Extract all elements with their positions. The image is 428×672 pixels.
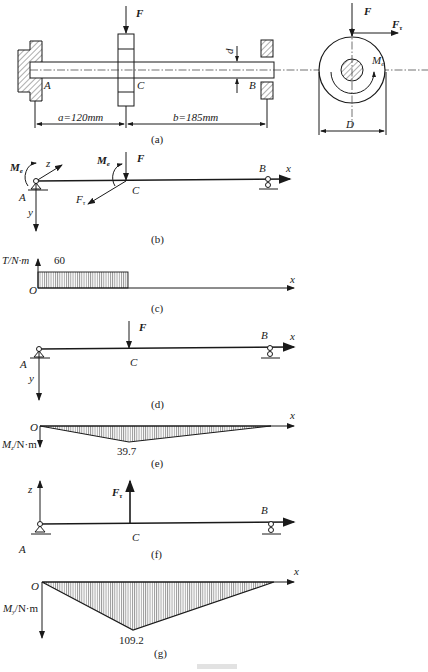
origin-label-e: O bbox=[30, 421, 38, 433]
panel-a-shaft-assembly: F d A C B a=120mm b=185mm F Fτ Me bbox=[18, 3, 428, 146]
panel-b-free-body: Me Me F Fτ z y x A C B (b) bbox=[9, 152, 291, 246]
point-c-label-f: C bbox=[132, 531, 140, 543]
tangential-force-label-f: Fτ bbox=[111, 486, 123, 500]
watermark-bar bbox=[197, 664, 237, 669]
axis-y-label-d: y bbox=[28, 372, 34, 384]
axis-x-label-d: x bbox=[289, 330, 295, 342]
point-b-label: B bbox=[249, 79, 256, 91]
caption-c: (c) bbox=[151, 302, 164, 315]
torque-a-label: Me bbox=[9, 161, 23, 175]
moment-y-axis-label: My/N·m bbox=[2, 602, 39, 615]
caption-a: (a) bbox=[151, 133, 164, 146]
point-b-label-f: B bbox=[261, 504, 268, 516]
axis-y-label-b: y bbox=[27, 206, 33, 218]
point-b-label-b: B bbox=[259, 162, 266, 174]
axis-z-label-b: z bbox=[45, 157, 51, 169]
axis-x-label-b: x bbox=[285, 162, 291, 174]
point-a-label: A bbox=[43, 79, 51, 91]
panel-c-torque-diagram: T/N·m 60 O x (c) bbox=[2, 254, 295, 315]
panel-e-moment-mz: O Mz/N·m 39.7 x (e) bbox=[1, 409, 295, 470]
torque-value: 60 bbox=[54, 254, 66, 266]
caption-e: (e) bbox=[151, 457, 164, 470]
moment-z-value: 39.7 bbox=[117, 445, 137, 457]
bearing-b-bottom bbox=[261, 82, 273, 99]
origin-label-g: O bbox=[31, 580, 39, 592]
dimension-a-label: a=120mm bbox=[58, 111, 103, 123]
point-a-label-d: A bbox=[19, 358, 27, 370]
caption-f: (f) bbox=[151, 548, 162, 561]
caption-g: (g) bbox=[154, 647, 167, 660]
panel-d-vertical-plane: F x y A C B (d) bbox=[19, 321, 295, 411]
caption-b: (b) bbox=[151, 233, 164, 246]
caption-d: (d) bbox=[151, 398, 164, 411]
point-c-label-b: C bbox=[132, 184, 140, 196]
point-c-label-d: C bbox=[130, 356, 138, 368]
origin-label-c: O bbox=[29, 284, 37, 296]
gear-side-view: F Fτ Me D bbox=[319, 3, 403, 135]
axis-x-label-g: x bbox=[293, 565, 299, 577]
panel-f-horizontal-plane: z Fτ A C B (f) bbox=[18, 481, 294, 561]
moment-z-axis-label: Mz/N·m bbox=[1, 438, 37, 451]
force-f-label-d: F bbox=[138, 321, 147, 333]
panel-g-moment-my: O My/N·m 109.2 x (g) bbox=[2, 565, 299, 660]
bearing-b-top bbox=[261, 40, 273, 57]
gear-diameter-label: D bbox=[345, 118, 354, 130]
axis-x-label-c: x bbox=[289, 273, 295, 285]
tangential-force-label-b: Fτ bbox=[75, 193, 86, 207]
point-c-label: C bbox=[137, 79, 145, 91]
torque-axis-label: T/N·m bbox=[2, 254, 29, 266]
torque-c-label: Me bbox=[96, 154, 110, 168]
point-a-label-b: A bbox=[18, 191, 26, 203]
side-tangential-force-label: Fτ bbox=[391, 18, 403, 32]
shaft-analysis-figure: F d A C B a=120mm b=185mm F Fτ Me bbox=[0, 0, 428, 672]
axis-z-label-f: z bbox=[27, 483, 33, 495]
axis-x-label-e: x bbox=[289, 409, 295, 421]
point-b-label-d: B bbox=[261, 329, 268, 341]
force-f-label-b: F bbox=[136, 152, 145, 164]
force-f-label: F bbox=[135, 7, 144, 19]
moment-y-value: 109.2 bbox=[119, 634, 144, 646]
side-force-f-label: F bbox=[363, 5, 372, 17]
point-a-label-f: A bbox=[18, 543, 26, 555]
dimension-b-label: b=185mm bbox=[173, 111, 218, 123]
shaft-diameter-label: d bbox=[223, 48, 235, 54]
